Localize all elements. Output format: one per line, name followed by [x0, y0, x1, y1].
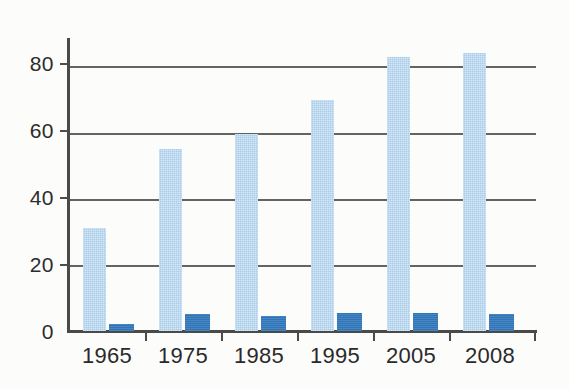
y-tick-label-80: 80	[8, 53, 54, 74]
x-tick-mark-5	[449, 331, 451, 341]
y-tick-label-20: 20	[8, 254, 54, 275]
y-tick-label-0: 0	[8, 321, 54, 342]
plot-area	[69, 40, 536, 331]
bar-dark-1995	[337, 313, 362, 331]
x-tick-label-2008: 2008	[452, 345, 528, 367]
x-tick-label-1985: 1985	[221, 345, 297, 367]
x-tick-mark-1	[145, 331, 147, 341]
bar-chart-figure: 80 60 40 20 0	[0, 0, 569, 389]
x-tick-label-1965: 1965	[69, 345, 145, 367]
x-tick-mark-4	[373, 331, 375, 341]
bar-dark-2005	[413, 313, 438, 331]
bar-dark-1975	[185, 314, 210, 331]
y-tick-label-40: 40	[8, 187, 54, 208]
bar-dark-1985	[261, 316, 286, 331]
y-tick-label-60: 60	[8, 120, 54, 141]
x-tick-label-1975: 1975	[145, 345, 221, 367]
x-tick-mark-6	[534, 331, 536, 341]
x-tick-mark-3	[297, 331, 299, 341]
x-tick-mark-2	[221, 331, 223, 341]
bar-dark-2008	[489, 314, 514, 331]
bar-light-1995	[311, 100, 334, 331]
x-tick-label-1995: 1995	[297, 345, 373, 367]
bar-light-1965	[83, 228, 106, 331]
bar-light-1985	[235, 134, 258, 331]
bars-layer	[69, 40, 536, 331]
bar-light-2005	[387, 57, 410, 331]
x-tick-label-2005: 2005	[373, 345, 449, 367]
bar-light-2008	[463, 53, 486, 331]
bar-light-1975	[159, 149, 182, 331]
bar-dark-1965	[109, 324, 134, 331]
